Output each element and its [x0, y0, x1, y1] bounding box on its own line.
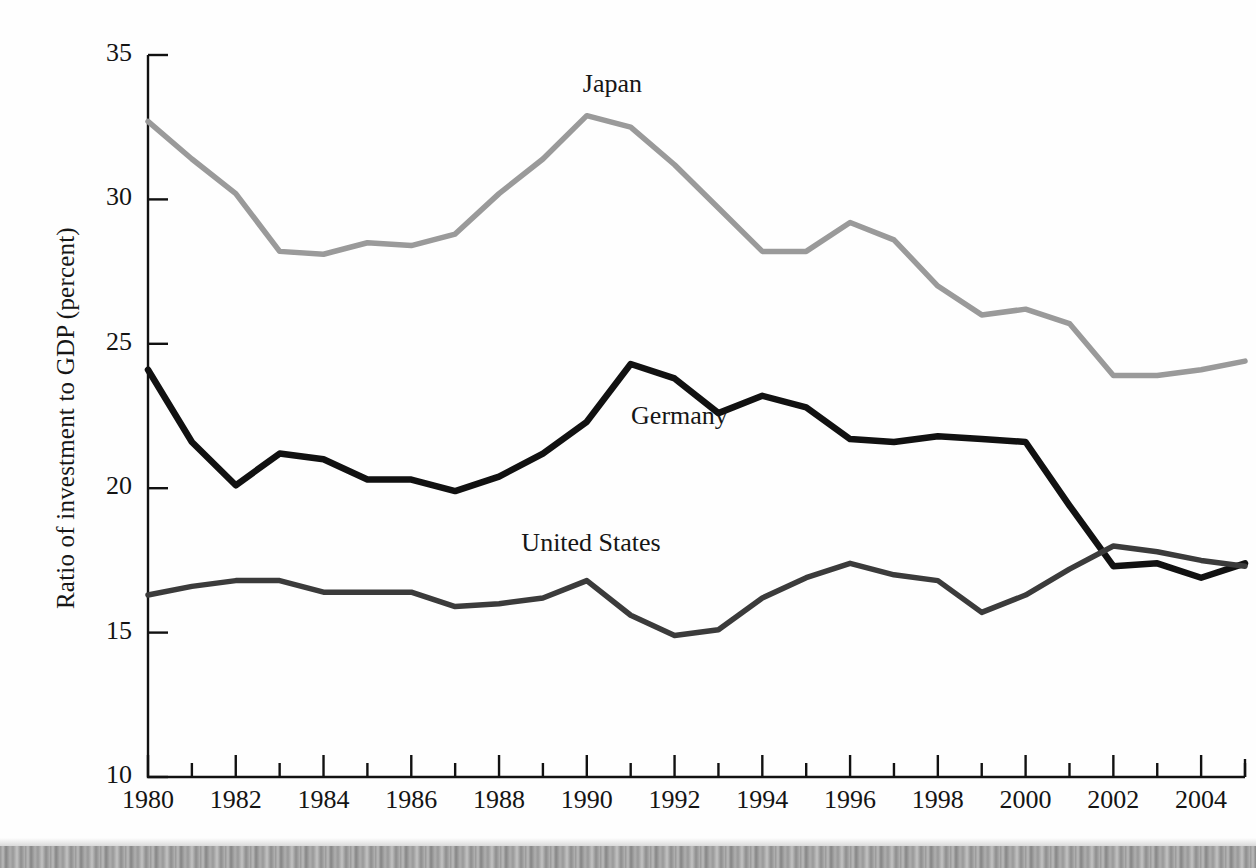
y-tick-label: 30: [76, 182, 132, 212]
x-tick-label: 2004: [1146, 785, 1256, 815]
chart-figure: Ratio of investment to GDP (percent) 101…: [0, 0, 1256, 868]
y-tick-label: 25: [76, 327, 132, 357]
y-tick-label: 20: [76, 471, 132, 501]
series-label-united-states: United States: [521, 528, 660, 558]
y-tick-label: 35: [76, 38, 132, 68]
series-line-japan: [148, 116, 1245, 376]
series-label-japan: Japan: [583, 69, 642, 99]
y-tick-label: 15: [76, 616, 132, 646]
scan-artifact-band: [0, 846, 1256, 868]
tick-marks-group: [148, 199, 1245, 777]
line-chart-plot: [0, 0, 1256, 868]
series-label-germany: Germany: [631, 401, 728, 431]
data-series-group: [148, 116, 1245, 636]
series-line-united-states: [148, 546, 1245, 636]
scan-artifact-gradient: [0, 838, 1256, 846]
series-line-germany: [148, 364, 1245, 578]
